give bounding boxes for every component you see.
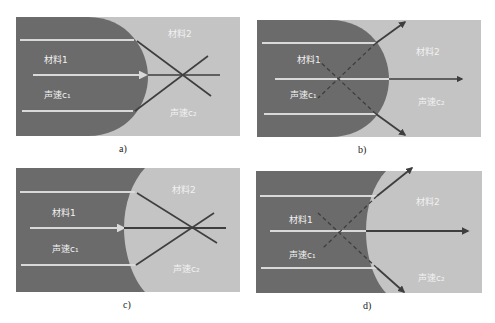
material2-label: 材料2 <box>416 196 440 207</box>
panel-a: 材料1 声速c₁ 材料2 声速c₂ <box>16 17 240 136</box>
panel-d: 材料1 声速c₁ 材料2 声速c₂ <box>256 168 482 293</box>
speed2-label: 声速c₂ <box>418 96 445 107</box>
caption-b: b) <box>358 144 366 155</box>
material1-convex-region <box>16 17 148 136</box>
panel-b: 材料1 声速c₁ 材料2 声速c₂ <box>257 20 481 137</box>
panel-c: 材料1 声速c₁ 材料2 声速c₂ <box>16 168 240 292</box>
caption-c: c) <box>123 299 131 310</box>
material1-label: 材料1 <box>44 54 68 65</box>
material2-label: 材料2 <box>172 184 196 195</box>
speed1-label: 声速c₁ <box>52 243 79 254</box>
speed1-label: 声速c₁ <box>289 249 316 260</box>
speed2-label: 声速c₂ <box>173 263 200 274</box>
speed2-label: 声速c₂ <box>418 272 445 283</box>
speed1-label: 声速c₁ <box>44 89 71 100</box>
material2-label: 材料2 <box>416 46 440 57</box>
material1-label: 材料1 <box>52 207 76 218</box>
material1-label: 材料1 <box>297 54 321 65</box>
speed1-label: 声速c₁ <box>290 89 317 100</box>
material2-label: 材料2 <box>168 28 192 39</box>
speed2-label: 声速c₂ <box>170 107 197 118</box>
material1-label: 材料1 <box>289 214 313 225</box>
caption-d: d) <box>363 300 371 311</box>
caption-a: a) <box>119 143 127 154</box>
refraction-diagrams: 材料1 声速c₁ 材料2 声速c₂ 材料1 声速c₁ 材料2 声速c₂ 材料1 … <box>0 0 495 323</box>
